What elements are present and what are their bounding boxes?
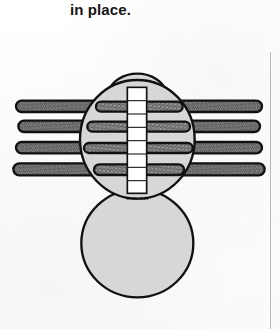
book-page: in place. bbox=[0, 0, 280, 329]
abdomen-circle bbox=[81, 189, 193, 297]
center-ladder-strip bbox=[127, 87, 146, 193]
inner-leg-right-1 bbox=[143, 102, 182, 112]
inner-leg-right-3 bbox=[143, 143, 192, 153]
spider-diagram-figure: Underside bbox=[0, 50, 280, 329]
caption-text: in place. bbox=[70, 1, 131, 18]
svg-text:Underside: Underside bbox=[126, 195, 149, 201]
inner-leg-right-4 bbox=[143, 164, 184, 175]
inner-leg-right-2 bbox=[143, 122, 190, 132]
underside-label: Underside bbox=[126, 195, 149, 201]
